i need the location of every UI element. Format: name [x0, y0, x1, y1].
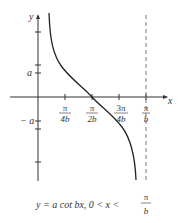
svg-text:π: π	[63, 103, 68, 113]
y-tick-label-a: a	[27, 67, 32, 78]
svg-text:b: b	[144, 114, 149, 124]
svg-text:4b: 4b	[61, 114, 71, 124]
svg-text:3π: 3π	[116, 103, 126, 113]
svg-text:y = a cot bx, 0 < x <: y = a cot bx, 0 < x <	[35, 199, 119, 210]
chart: y x a − a π 4b π 2b 3π 4b π b y = a cot …	[0, 0, 179, 223]
x-axis-label: x	[167, 95, 173, 106]
y-tick-label-neg-a: − a	[20, 115, 34, 126]
svg-text:2b: 2b	[88, 114, 98, 124]
x-tick-labels: π 4b π 2b 3π 4b π b	[59, 103, 150, 124]
y-axis-arrow-icon	[36, 14, 40, 19]
svg-text:π: π	[144, 103, 149, 113]
chart-caption: y = a cot bx, 0 < x < π b	[35, 192, 151, 216]
svg-text:π: π	[90, 103, 95, 113]
svg-text:π: π	[144, 192, 149, 202]
svg-text:4b: 4b	[117, 114, 127, 124]
svg-text:b: b	[144, 206, 149, 216]
y-axis-label: y	[28, 11, 34, 22]
